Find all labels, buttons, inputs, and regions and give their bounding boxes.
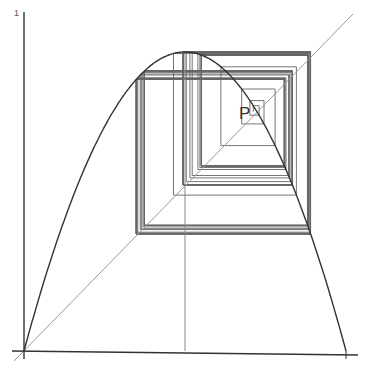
cobweb-path [136, 52, 310, 234]
cobweb-orbit [136, 52, 310, 234]
cobweb-diagram [0, 0, 372, 374]
fixed-point-label: P [239, 104, 250, 124]
y-axis-tick-label: 1 [14, 8, 19, 18]
x-axis [12, 351, 358, 355]
